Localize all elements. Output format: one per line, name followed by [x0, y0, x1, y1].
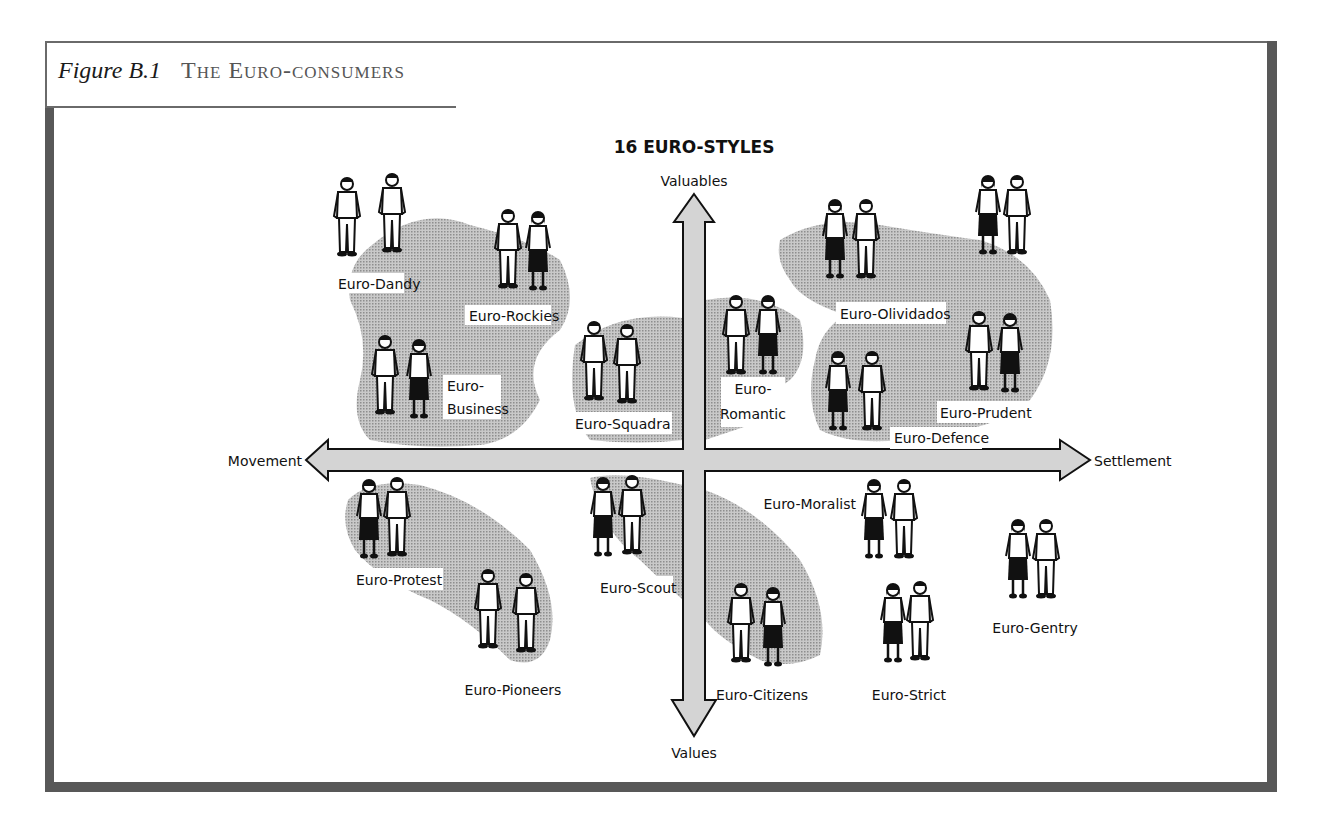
axis-label-top: Valuables	[660, 173, 727, 189]
svg-text:Euro-Squadra: Euro-Squadra	[575, 416, 671, 432]
svg-text:Euro-Prudent: Euro-Prudent	[940, 405, 1032, 421]
svg-text:Euro-: Euro-	[734, 381, 771, 397]
label-euro-defence: Euro-Defence	[890, 427, 989, 449]
people-euro-gentry	[1006, 520, 1059, 599]
label-euro-pioneers: Euro-Pioneers	[465, 682, 562, 698]
label-euro-business: Euro- Business	[443, 375, 509, 419]
svg-text:Business: Business	[447, 401, 509, 417]
label-euro-citizens: Euro-Citizens	[716, 687, 808, 703]
label-euro-moralist: Euro-Moralist	[763, 496, 856, 512]
svg-text:Euro-Strict: Euro-Strict	[872, 687, 947, 703]
svg-text:Euro-Pioneers: Euro-Pioneers	[465, 682, 562, 698]
label-euro-rockies: Euro-Rockies	[465, 305, 559, 325]
svg-text:Euro-Defence: Euro-Defence	[894, 430, 989, 446]
svg-text:Euro-Moralist: Euro-Moralist	[763, 496, 856, 512]
label-euro-dandy: Euro-Dandy	[334, 273, 420, 293]
svg-text:Euro-Gentry: Euro-Gentry	[992, 620, 1077, 636]
people-euro-olividados-2	[976, 176, 1030, 255]
axis-label-left: Movement	[228, 453, 303, 469]
diagram-title: 16 EURO-STYLES	[614, 137, 775, 157]
label-euro-olividados: Euro-Olividados	[836, 302, 951, 324]
label-euro-scout: Euro-Scout	[597, 576, 677, 598]
svg-text:Euro-Dandy: Euro-Dandy	[338, 276, 420, 292]
euro-styles-diagram: 16 EURO-STYLES Valuables Values Movement…	[0, 0, 1330, 831]
label-euro-squadra: Euro-Squadra	[572, 412, 672, 434]
svg-text:Euro-Rockies: Euro-Rockies	[469, 308, 559, 324]
people-euro-moralist	[862, 480, 917, 559]
svg-text:Romantic: Romantic	[720, 406, 786, 422]
svg-text:Euro-Olividados: Euro-Olividados	[840, 306, 951, 322]
axis-label-right: Settlement	[1094, 453, 1172, 469]
label-euro-prudent: Euro-Prudent	[937, 401, 1032, 423]
people-euro-strict	[881, 582, 933, 663]
label-euro-protest: Euro-Protest	[353, 568, 443, 590]
label-euro-strict: Euro-Strict	[872, 687, 947, 703]
label-euro-romantic: Euro- Romantic	[720, 377, 786, 427]
label-euro-gentry: Euro-Gentry	[992, 620, 1077, 636]
svg-text:Euro-Citizens: Euro-Citizens	[716, 687, 808, 703]
axis-label-bottom: Values	[671, 745, 717, 761]
svg-text:Euro-: Euro-	[447, 378, 484, 394]
people-euro-dandy	[334, 174, 405, 257]
svg-text:Euro-Protest: Euro-Protest	[356, 572, 443, 588]
svg-text:Euro-Scout: Euro-Scout	[600, 580, 677, 596]
